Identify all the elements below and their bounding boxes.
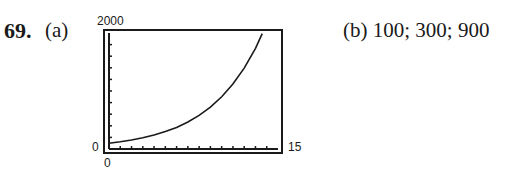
graph-plot (0, 0, 510, 173)
exponential-curve (109, 34, 262, 144)
axis-ticks (109, 45, 267, 149)
